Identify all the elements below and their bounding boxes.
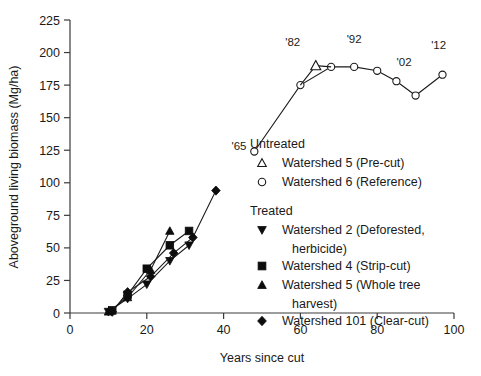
y-tick-label: 200 [39,46,60,60]
marker-filled-up-triangle [166,227,174,235]
legend-item-label: Watershed 4 (Strip-cut) [282,259,411,273]
marker-filled-down-triangle [258,227,267,235]
y-tick-label: 25 [46,274,60,288]
y-tick-label: 75 [46,209,60,223]
marker-open-circle [412,92,419,99]
x-tick-label: 20 [140,323,154,337]
legend-marker [258,159,267,167]
marker-filled-up-triangle [258,281,267,289]
x-tick-label: 40 [217,323,231,337]
legend-item-label: Watershed 2 (Deforested, [282,223,425,237]
marker-open-circle [393,78,400,85]
marker-open-triangle [258,159,267,167]
series-group [104,227,174,315]
marker-open-circle [374,67,381,74]
legend-item-label: Watershed 101 (Clear-cut) [282,314,429,328]
legend-marker [258,178,265,185]
x-tick-label: 0 [67,323,74,337]
marker-open-circle [258,178,265,185]
y-axis-title: Aboveground living biomass (Mg/ha) [7,66,21,269]
legend-marker [258,227,267,235]
y-axis-ticks: 0255075100125150175200225 [39,14,70,321]
marker-filled-square [166,241,174,249]
y-tick-label: 100 [39,176,60,190]
legend-marker [258,316,267,325]
marker-open-triangle [311,61,321,70]
marker-filled-diamond [212,186,221,195]
point-year-label: '82 [285,36,300,48]
legend-marker [258,281,267,289]
legend-item-label: Watershed 5 (Pre-cut) [282,156,405,170]
marker-filled-diamond [258,316,267,325]
y-tick-label: 225 [39,14,60,28]
y-tick-label: 50 [46,241,60,255]
y-tick-label: 0 [53,307,60,321]
legend-item-label: Watershed 6 (Reference) [282,175,422,189]
series-line [108,231,169,312]
x-axis-title: Years since cut [220,351,305,365]
legend-group-heading: Treated [250,204,293,218]
legend-item-label: Watershed 5 (Whole tree [282,278,421,292]
y-tick-label: 125 [39,144,60,158]
y-tick-label: 150 [39,111,60,125]
legend-item-label: herbicide) [292,242,347,256]
chart-legend: UntreatedWatershed 5 (Pre-cut)Watershed … [250,137,429,328]
point-year-label: '02 [397,56,412,68]
marker-filled-square [258,262,266,270]
legend-group-heading: Untreated [250,137,305,151]
point-year-label: '12 [431,39,446,51]
legend-item-label: harvest) [292,297,337,311]
point-year-label: '65 [231,140,246,152]
legend-marker [258,262,266,270]
marker-filled-down-triangle [143,281,151,289]
marker-open-circle [439,71,446,78]
point-year-label: '92 [347,33,362,45]
x-tick-label: 100 [444,323,465,337]
chart-figure: 0255075100125150175200225 020406080100 A… [0,0,481,376]
precut-connector [300,61,331,86]
marker-open-circle [351,63,358,70]
y-tick-label: 175 [39,79,60,93]
